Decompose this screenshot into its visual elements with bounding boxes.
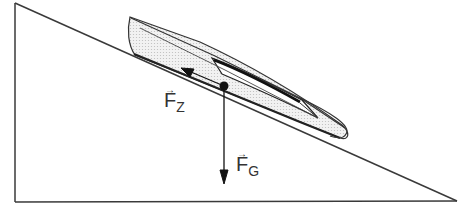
fz-symbol: → F xyxy=(164,90,176,110)
force-fg-arrow xyxy=(220,86,228,184)
incline-diagram xyxy=(0,0,464,209)
vector-arrow-icon: → xyxy=(165,85,175,95)
incline-base-edge xyxy=(15,201,457,202)
fg-symbol: → F xyxy=(236,154,248,174)
fg-subscript: G xyxy=(248,163,259,179)
force-fz-label: → F Z xyxy=(164,90,185,114)
fz-subscript: Z xyxy=(176,99,185,115)
boat xyxy=(128,17,347,139)
vector-arrow-icon: → xyxy=(237,149,247,159)
force-fg-label: → F G xyxy=(236,154,259,178)
